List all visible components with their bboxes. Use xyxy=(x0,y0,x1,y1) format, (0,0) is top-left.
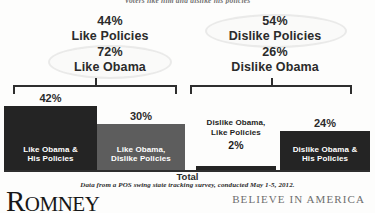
stat-dislike-policies-value: 54% xyxy=(200,14,350,29)
stat-dislike-obama-value: 26% xyxy=(200,45,350,60)
bar-label-line1: Like Obama & xyxy=(23,145,78,154)
footer-band: ROMNEY BELIEVE IN AMERICA xyxy=(0,188,375,213)
stat-dislike-obama-label: Dislike Obama xyxy=(200,60,350,75)
bracket-stem xyxy=(95,78,97,87)
stat-like-policies: 44% Like Policies xyxy=(40,14,180,45)
bar-label-line1: Dislike Obama & xyxy=(293,145,358,154)
stat-dislike-obama: 26% Dislike Obama xyxy=(200,45,350,76)
bracket-dislike-obama xyxy=(190,85,352,94)
stat-like-obama: 72% Like Obama xyxy=(40,45,180,76)
bar-dislike-obama-like-policies-label: Dislike Obama, Like Policies 2% xyxy=(190,118,282,151)
bar-value-label: 24% xyxy=(280,117,370,129)
bar-label-line1: Like Obama, xyxy=(117,145,166,154)
bracket-stem xyxy=(271,78,273,87)
bar-like-obama-and-policies: 42% Like Obama & His Policies xyxy=(4,106,97,170)
bar-value-label: 30% xyxy=(97,110,185,122)
stat-like-policies-value: 44% xyxy=(40,14,180,29)
romney-logo: ROMNEY xyxy=(6,185,99,213)
bar-category-label: Like Obama, Dislike Policies xyxy=(97,145,185,165)
bar-chart: 42% Like Obama & His Policies 30% Like O… xyxy=(0,100,375,172)
stat-like-policies-label: Like Policies xyxy=(40,29,180,44)
bar-category-label: Like Obama & His Policies xyxy=(4,145,97,165)
stat-dislike-policies-label: Dislike Policies xyxy=(200,29,350,44)
stat-dislike-policies: 54% Dislike Policies xyxy=(200,14,350,45)
romney-logo-initial: R xyxy=(6,185,25,213)
campaign-tagline: BELIEVE IN AMERICA xyxy=(232,193,365,205)
bar-label-line2: His Policies xyxy=(27,154,73,163)
stat-like-obama-label: Like Obama xyxy=(40,60,180,75)
bar-label-line2: His Policies xyxy=(302,154,348,163)
stat-like-obama-value: 72% xyxy=(40,45,180,60)
bar-label-line2: Dislike Policies xyxy=(111,154,171,163)
bar-label-line2: Like Policies xyxy=(211,128,261,137)
slide-title: Voters like him and dislike his policies xyxy=(0,0,375,4)
bar-category-label: Dislike Obama & His Policies xyxy=(280,145,370,165)
bar-value-label: 42% xyxy=(4,92,97,104)
romney-logo-text: OMNEY xyxy=(25,192,100,213)
bar-dislike-obama-and-policies: 24% Dislike Obama & His Policies xyxy=(280,131,370,170)
bar-like-obama-dislike-policies: 30% Like Obama, Dislike Policies xyxy=(97,124,185,170)
bar-label-line1: Dislike Obama, xyxy=(207,118,266,127)
bar-value-label: 2% xyxy=(190,139,282,152)
slide-canvas: Voters like him and dislike his policies… xyxy=(0,0,375,213)
